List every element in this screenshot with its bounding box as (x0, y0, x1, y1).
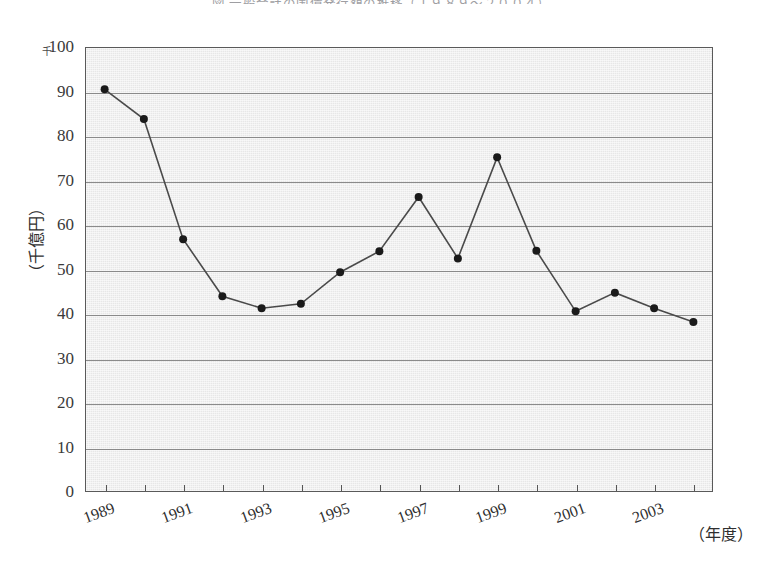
x-axis-tick-label: 2003 (630, 499, 666, 527)
x-axis-tick-label: 1993 (238, 499, 274, 527)
data-point (689, 318, 697, 326)
data-point (218, 292, 226, 300)
data-point (101, 85, 109, 93)
data-point (572, 307, 580, 315)
data-point (650, 304, 658, 312)
series-line (105, 89, 694, 322)
data-point (493, 153, 501, 161)
y-axis-tick-label: 40 (28, 305, 74, 322)
data-point (297, 300, 305, 308)
data-point (336, 268, 344, 276)
data-point (258, 304, 266, 312)
y-axis-tick-label: 60 (28, 216, 74, 233)
data-point (375, 247, 383, 255)
y-axis-tick-label: 10 (28, 439, 74, 456)
y-axis-tick-label: 70 (28, 172, 74, 189)
y-axis-tick-label: 20 (28, 394, 74, 411)
x-axis-tick-label: 1999 (473, 499, 509, 527)
y-axis-tick-label: 100 (28, 38, 74, 55)
data-point (611, 289, 619, 297)
data-point (140, 115, 148, 123)
x-axis-tick-label: 1991 (159, 499, 195, 527)
y-axis-tick-label: 90 (28, 83, 74, 100)
chart-figure: 図 一般会計の国債発行額の推移（１９８９～２００４） 千 （千億円） （年度） … (0, 0, 763, 561)
x-axis-tick-label: 1989 (81, 499, 117, 527)
y-axis-tick-label: 80 (28, 127, 74, 144)
line-series (85, 47, 713, 492)
y-axis-tick-label: 0 (28, 483, 74, 500)
data-point (532, 247, 540, 255)
data-point (179, 235, 187, 243)
data-point (415, 193, 423, 201)
figure-title: 図 一般会計の国債発行額の推移（１９８９～２００４） (0, 0, 763, 4)
x-axis-title: （年度） (689, 521, 753, 545)
x-axis-tick-label: 2001 (552, 499, 588, 527)
y-axis-tick-label: 30 (28, 350, 74, 367)
x-axis-tick-label: 1997 (395, 499, 431, 527)
data-point (454, 254, 462, 262)
y-axis-tick-label: 50 (28, 261, 74, 278)
x-axis-tick-label: 1995 (316, 499, 352, 527)
